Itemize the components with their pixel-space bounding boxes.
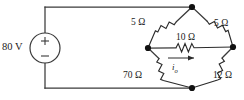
voltage-source-symbol [30, 33, 60, 63]
resistor-label-top-left: 5 Ω [131, 17, 145, 27]
node-right [230, 44, 236, 50]
source-voltage-label: 80 V [2, 41, 23, 52]
resistor-label-middle: 10 Ω [176, 32, 195, 42]
resistor-label-bottom-right: 12 Ω [213, 70, 232, 80]
current-label-io: io [172, 62, 179, 74]
branch-lower-left [148, 48, 192, 88]
current-arrow-io [168, 55, 194, 60]
resistor-label-bottom-left: 70 Ω [123, 70, 142, 80]
node-bottom [189, 85, 195, 91]
circuit-diagram: 80 V 5 Ω 5 Ω 70 Ω 12 Ω [0, 0, 244, 100]
branch-middle [148, 44, 233, 52]
node-left [145, 45, 151, 51]
node-top [189, 4, 195, 10]
current-subscript: o [175, 67, 179, 74]
resistor-label-top-right: 5 Ω [214, 18, 228, 28]
branch-lower-right [192, 47, 233, 88]
